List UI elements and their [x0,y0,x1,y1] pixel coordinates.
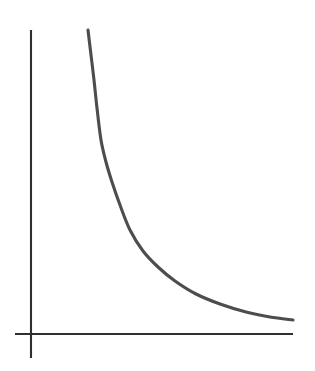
figure-container: Smooth decreasing convex curve resemblin… [0,0,315,371]
decay-curve-chart [0,0,315,371]
